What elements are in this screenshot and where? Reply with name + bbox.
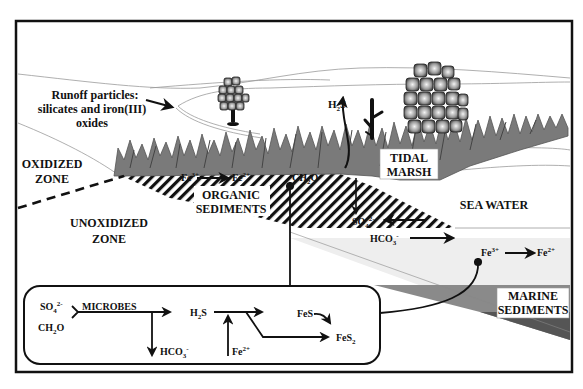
organic-sediments-label-line1: ORGANIC: [202, 188, 260, 202]
unoxidized-zone-label-line1: UNOXIDIZED: [70, 216, 148, 230]
tidal-marsh-label-line2: MARSH: [387, 165, 432, 179]
marine-sediments-label-line2: SEDIMENTS: [498, 303, 569, 317]
tidal-marsh-label-line1: TIDAL: [390, 151, 428, 165]
sea-water-label: SEA WATER: [460, 198, 529, 212]
oxidized-zone-label-line1: OXIDIZED: [22, 157, 83, 171]
box-fes-label: FeS: [297, 308, 314, 319]
box-microbes-label: MICROBES: [82, 301, 137, 312]
marine-sediments-label-line1: MARINE: [508, 289, 558, 303]
reaction-process-box: [24, 286, 380, 364]
unoxidized-zone-label-line2: ZONE: [92, 232, 126, 246]
oxidized-zone-label-line2: ZONE: [35, 172, 69, 186]
runoff-label-line3: oxides: [76, 116, 108, 130]
runoff-label-line1: Runoff particles:: [52, 88, 139, 102]
runoff-label-line2: silicates and iron(III): [38, 102, 146, 116]
organic-sediments-label-line2: SEDIMENTS: [196, 202, 267, 216]
sulfur-iron-cycle-diagram: Runoff particles: silicates and iron(III…: [0, 0, 583, 389]
